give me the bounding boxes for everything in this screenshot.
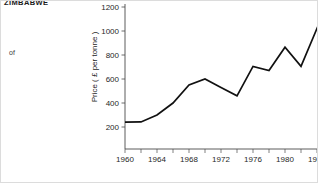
y-tick-label: 1200 bbox=[101, 3, 119, 12]
y-axis-label: Price ( £ per tonne ) bbox=[90, 31, 99, 102]
y-tick-label: 600 bbox=[106, 75, 120, 84]
y-axis: 20040060080010001200 bbox=[101, 3, 125, 149]
x-tick-label: 1972 bbox=[212, 155, 230, 164]
x-tick-label: 1980 bbox=[276, 155, 294, 164]
y-axis-tick-labels: 20040060080010001200 bbox=[101, 3, 119, 132]
data-series-group bbox=[125, 9, 318, 122]
x-tick-label: 1984 bbox=[308, 155, 318, 164]
x-axis: 1960196419681972197619801984 bbox=[116, 149, 318, 164]
x-axis-ticks bbox=[125, 149, 317, 153]
y-axis-ticks bbox=[122, 7, 126, 127]
page-heading: ZIMBABWE bbox=[4, 0, 48, 7]
y-tick-label: 400 bbox=[106, 99, 120, 108]
x-tick-label: 1960 bbox=[116, 155, 134, 164]
y-tick-label: 800 bbox=[106, 51, 120, 60]
y-tick-label: 1000 bbox=[101, 27, 119, 36]
y-axis-label-text: Price ( £ per tonne ) bbox=[90, 31, 99, 102]
x-tick-label: 1976 bbox=[244, 155, 262, 164]
x-tick-label: 1964 bbox=[148, 155, 166, 164]
screenshot-root: ZIMBABWE of 20040060080010001200 1960196… bbox=[0, 0, 318, 183]
y-tick-label: 200 bbox=[106, 123, 120, 132]
x-tick-label: 1968 bbox=[180, 155, 198, 164]
price-line-chart: 20040060080010001200 1960196419681972197… bbox=[87, 1, 318, 183]
body-text-fragment: of bbox=[9, 49, 15, 56]
x-axis-tick-labels: 1960196419681972197619801984 bbox=[116, 155, 318, 164]
chart-canvas: 20040060080010001200 1960196419681972197… bbox=[87, 1, 318, 183]
price-series-line bbox=[125, 9, 318, 122]
